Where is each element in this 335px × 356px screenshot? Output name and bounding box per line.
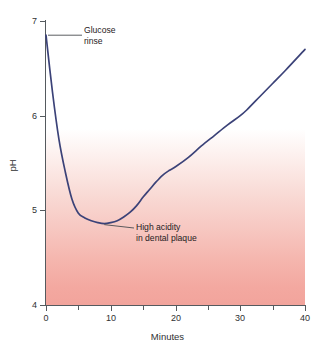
annotation-high-acidity-line2: in dental plaque — [136, 233, 197, 244]
annotation-glucose-rinse: Glucose rinse — [84, 25, 116, 47]
annotation-glucose-rinse-line1: Glucose — [84, 25, 116, 36]
ph-curve-figure: 7 6 5 4 0 10 20 30 40 Minutes pH Glucose… — [0, 0, 335, 356]
annotation-glucose-rinse-line2: rinse — [84, 36, 116, 47]
high-acidity-leader-line — [104, 225, 134, 228]
curve-overlay — [0, 0, 335, 356]
ph-data-curve — [46, 35, 305, 223]
annotation-high-acidity-line1: High acidity — [136, 222, 197, 233]
annotation-high-acidity: High acidity in dental plaque — [136, 222, 197, 244]
